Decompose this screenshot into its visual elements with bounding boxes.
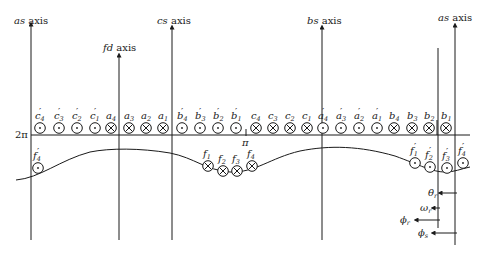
conductor-label: f1 [202, 148, 211, 161]
conductor-f1-prime: f1′ [409, 141, 420, 168]
conductor-label: b4 [389, 110, 400, 123]
conductor-b1-prime: b1′ [231, 106, 242, 133]
angle-ϕr: ϕr [400, 214, 440, 227]
conductor-f2: f2 [217, 153, 228, 176]
conductor-c3: c3 [268, 110, 279, 133]
conductor-b2: b2 [424, 110, 435, 133]
conductor-label: c3 [268, 110, 278, 123]
conductor-label: b3 [407, 110, 418, 123]
conductor-label: a2 [141, 110, 151, 123]
conductor-c4-prime: c4′ [35, 106, 46, 133]
conductor-c1-prime: c1′ [90, 106, 101, 133]
conductor-label: b2 [424, 110, 435, 123]
conductor-label: f3 [231, 153, 240, 166]
conductor-f1: f1 [202, 148, 213, 171]
angle-θr: θr [428, 187, 457, 200]
fd-axis: fd axis [102, 42, 136, 240]
conductor-a4-prime: a4′ [318, 106, 329, 133]
conductor-label: a3 [124, 110, 134, 123]
conductor-b3: b3 [407, 110, 418, 133]
conductor-label: f2 [217, 153, 226, 166]
conductor-f2-prime: f2′ [424, 145, 435, 172]
angle-label: ϕr [400, 214, 411, 227]
conductor-label: c1 [302, 110, 312, 123]
conductor-label: a1 [158, 110, 168, 123]
conductor-label: a4 [106, 110, 116, 123]
angle-ϕs: ϕs [418, 227, 457, 240]
machine-winding-diagram: 2π π as axisfd axiscs axisbs axisas axis… [0, 0, 483, 257]
conductor-a1: a1 [158, 110, 169, 133]
conductor-c2: c2 [285, 110, 296, 133]
angle-label: ϕs [418, 227, 429, 240]
conductor-f4-prime: f4′ [457, 141, 468, 168]
conductor-c1: c1 [302, 110, 313, 133]
conductor-a3-prime: a3′ [336, 106, 347, 133]
conductor-a3: a3 [124, 110, 135, 133]
stator-conductors: c4′c3′c2′c1′a4a3a2a1b4′b3′b2′b1′c4c3c2c1… [35, 106, 452, 135]
conductor-c4: c4 [251, 110, 262, 133]
two-pi-label: 2π [15, 129, 28, 140]
angle-annotations: θrωrϕrϕs [400, 187, 457, 245]
conductor-c3-prime: c3′ [54, 106, 65, 133]
conductor-c2-prime: c2′ [72, 106, 83, 133]
conductor-b4: b4 [389, 110, 400, 133]
conductor-b3-prime: b3′ [195, 106, 206, 133]
conductor-label: c4 [251, 110, 261, 123]
axis-label: fd axis [102, 42, 136, 53]
conductor-b4-prime: b4′ [177, 106, 188, 133]
conductor-a2-prime: a2′ [354, 106, 365, 133]
axis-label: bs axis [307, 15, 342, 26]
conductor-f3: f3 [231, 153, 242, 176]
conductor-a2: a2 [141, 110, 152, 133]
axes-layer: as axisfd axiscs axisbs axisas axis [14, 12, 472, 240]
pi-label: π [241, 137, 249, 148]
conductor-f4-prime: f4′ [32, 146, 43, 173]
conductor-a4: a4 [106, 110, 117, 133]
axis-label: as axis [438, 12, 472, 23]
conductor-f3-prime: f3′ [441, 146, 452, 173]
angle-label: ωr [420, 202, 432, 215]
axis-label: cs axis [157, 15, 191, 26]
angle-label: θr [428, 187, 438, 200]
conductor-label: c2 [285, 110, 295, 123]
conductor-b2-prime: b2′ [213, 106, 224, 133]
conductor-label: f4 [246, 148, 255, 161]
conductor-label: b1 [441, 110, 452, 123]
rotor-surface-curve [16, 147, 470, 180]
angle-ωr: ωr [420, 202, 440, 215]
conductor-b1: b1 [441, 110, 452, 133]
conductor-f4: f4 [246, 148, 257, 171]
axis-label: as axis [14, 15, 48, 26]
conductor-a1-prime: a1′ [372, 106, 383, 133]
